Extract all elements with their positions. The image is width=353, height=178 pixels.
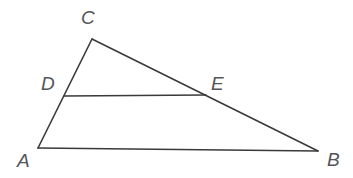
vertex-label-d: D [41, 74, 55, 93]
geometry-figure: A B C D E [0, 0, 353, 178]
vertex-label-a: A [17, 151, 30, 170]
segment-ab [38, 148, 318, 151]
segment-de [64, 95, 206, 96]
vertex-label-e: E [211, 74, 224, 93]
vertex-label-b: B [327, 150, 340, 169]
vertex-label-c: C [81, 8, 95, 27]
